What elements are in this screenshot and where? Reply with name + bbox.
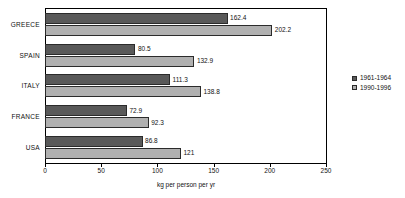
legend-swatch-icon <box>352 76 357 81</box>
chart-legend: 1961-19641990-1996 <box>352 75 391 91</box>
legend-label: 1961-1964 <box>360 75 391 82</box>
bar-row: 121 <box>45 148 326 159</box>
bar-row: 80.5 <box>45 44 326 55</box>
bar[interactable] <box>45 117 149 128</box>
bar-value-label: 86.8 <box>145 138 158 145</box>
bar-group: 80.5132.9 <box>45 40 326 71</box>
bar[interactable] <box>45 44 135 55</box>
bar-value-label: 92.3 <box>151 120 164 127</box>
bar-group: 86.8121 <box>45 132 326 163</box>
bar-row: 111.3 <box>45 74 326 85</box>
bar-group: 111.3138.8 <box>45 71 326 102</box>
category-axis-labels: GREECESPAINITALYFRANCEUSA <box>0 9 43 163</box>
bar-value-label: 80.5 <box>138 46 151 53</box>
category-label: GREECE <box>0 9 43 40</box>
bar[interactable] <box>45 13 228 24</box>
bar[interactable] <box>45 56 194 67</box>
x-tick-label: 250 <box>321 168 332 175</box>
category-label: FRANCE <box>0 101 43 132</box>
x-axis-tick-labels: 050100150200250 <box>45 168 327 178</box>
bar[interactable] <box>45 136 143 147</box>
bar-row: 202.2 <box>45 25 326 36</box>
bar-value-label: 202.2 <box>275 27 291 34</box>
bar-row: 138.8 <box>45 86 326 97</box>
bar[interactable] <box>45 148 181 159</box>
bar-value-label: 121 <box>184 150 195 157</box>
x-axis-title: kg per person per yr <box>45 181 327 188</box>
x-tick-label: 0 <box>43 168 47 175</box>
bar-row: 92.3 <box>45 117 326 128</box>
x-tick-label: 100 <box>152 168 163 175</box>
legend-item[interactable]: 1961-1964 <box>352 75 391 82</box>
x-tick-label: 150 <box>208 168 219 175</box>
bar-value-label: 162.4 <box>230 15 246 22</box>
bar-value-label: 138.8 <box>204 89 220 96</box>
legend-item[interactable]: 1990-1996 <box>352 85 391 92</box>
bar[interactable] <box>45 74 170 85</box>
bar[interactable] <box>45 25 272 36</box>
bar-group: 72.992.3 <box>45 101 326 132</box>
bar[interactable] <box>45 105 127 116</box>
bar-value-label: 72.9 <box>129 108 142 115</box>
bar-row: 72.9 <box>45 105 326 116</box>
category-label: ITALY <box>0 71 43 102</box>
category-label: SPAIN <box>0 40 43 71</box>
bar-group: 162.4202.2 <box>45 9 326 40</box>
bar-groups: 162.4202.280.5132.9111.3138.872.992.386.… <box>45 9 326 163</box>
x-tick-label: 50 <box>98 168 105 175</box>
legend-swatch-icon <box>352 85 357 90</box>
bar-value-label: 111.3 <box>173 77 188 84</box>
bar-value-label: 132.9 <box>197 58 213 65</box>
bar[interactable] <box>45 86 201 97</box>
bar-row: 132.9 <box>45 56 326 67</box>
bar-row: 162.4 <box>45 13 326 24</box>
x-tick-label: 200 <box>264 168 275 175</box>
bar-chart: GREECESPAINITALYFRANCEUSA 162.4202.280.5… <box>0 0 405 198</box>
bar-row: 86.8 <box>45 136 326 147</box>
legend-label: 1990-1996 <box>360 85 391 92</box>
category-label: USA <box>0 132 43 163</box>
